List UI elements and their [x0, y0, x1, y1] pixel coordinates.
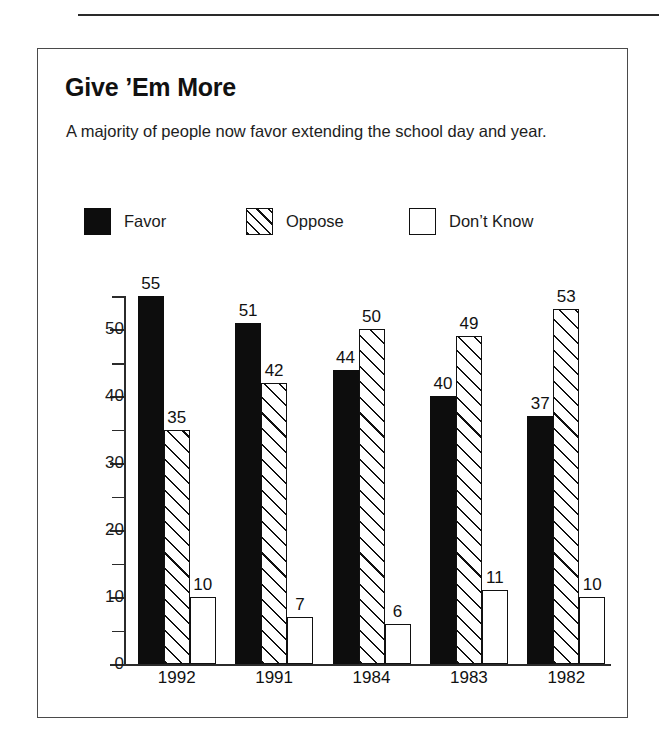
bar-1991-favor[interactable]: 51	[235, 323, 261, 664]
bar-value-label: 35	[167, 408, 186, 428]
legend-label-dont-know: Don’t Know	[449, 212, 533, 231]
x-axis-label-1982: 1982	[547, 668, 585, 688]
bar-1984-oppose[interactable]: 50	[359, 329, 385, 664]
bar-value-label: 11	[486, 568, 504, 588]
bar-1992-favor[interactable]: 55	[138, 296, 164, 664]
solid-black-swatch-icon	[84, 208, 111, 235]
bar-1992-oppose[interactable]: 35	[164, 430, 190, 664]
bar-1983-don-t-know[interactable]: 11	[482, 590, 508, 664]
empty-white-swatch-icon	[409, 208, 436, 235]
bar-value-label: 37	[531, 394, 550, 414]
bar-group-1983: 404911	[430, 296, 508, 664]
bar-1991-don-t-know[interactable]: 7	[287, 617, 313, 664]
bar-1991-oppose[interactable]: 42	[261, 383, 287, 664]
bar-value-label: 10	[193, 575, 212, 595]
bar-value-label: 7	[295, 595, 304, 615]
bar-1984-don-t-know[interactable]: 6	[385, 624, 411, 664]
chart-page: Give ’Em More A majority of people now f…	[0, 0, 659, 747]
bar-value-label: 53	[557, 287, 576, 307]
bar-value-label: 42	[265, 361, 284, 381]
bar-1992-don-t-know[interactable]: 10	[190, 597, 216, 664]
bar-1982-favor[interactable]: 37	[527, 416, 553, 664]
bar-value-label: 50	[362, 307, 381, 327]
bar-value-label: 49	[459, 314, 478, 334]
plot-area: 01020304050 5535105142744506404911375310…	[66, 254, 611, 674]
bar-value-label: 55	[141, 274, 160, 294]
bar-groups: 5535105142744506404911375310	[66, 254, 611, 674]
bar-value-label: 40	[433, 374, 452, 394]
legend-item-favor: Favor	[84, 204, 166, 238]
x-axis-label-1983: 1983	[450, 668, 488, 688]
bar-group-1992: 553510	[138, 296, 216, 664]
bar-value-label: 6	[393, 602, 402, 622]
bar-1982-oppose[interactable]: 53	[553, 309, 579, 664]
bar-value-label: 10	[583, 575, 602, 595]
chart-legend: Favor Oppose Don’t Know	[66, 204, 596, 238]
x-axis-label-1984: 1984	[353, 668, 391, 688]
bar-1983-favor[interactable]: 40	[430, 396, 456, 664]
bar-1982-don-t-know[interactable]: 10	[579, 597, 605, 664]
bar-value-label: 51	[239, 301, 258, 321]
bar-group-1984: 44506	[333, 296, 411, 664]
bar-value-label: 44	[336, 348, 355, 368]
bar-group-1991: 51427	[235, 296, 313, 664]
x-axis-label-1991: 1991	[255, 668, 293, 688]
legend-label-oppose: Oppose	[286, 212, 344, 231]
x-axis-label-1992: 1992	[158, 668, 196, 688]
bar-1984-favor[interactable]: 44	[333, 370, 359, 664]
legend-item-oppose: Oppose	[246, 204, 344, 238]
bar-1983-oppose[interactable]: 49	[456, 336, 482, 664]
legend-label-favor: Favor	[124, 212, 166, 231]
legend-item-dont-know: Don’t Know	[409, 204, 533, 238]
top-divider-rule	[78, 14, 659, 16]
chart-panel: Give ’Em More A majority of people now f…	[37, 48, 628, 718]
diagonal-hatch-swatch-icon	[246, 208, 273, 235]
bar-group-1982: 375310	[527, 296, 605, 664]
page-title: Give ’Em More	[65, 73, 236, 102]
chart-subtitle: A majority of people now favor extending…	[66, 119, 566, 143]
